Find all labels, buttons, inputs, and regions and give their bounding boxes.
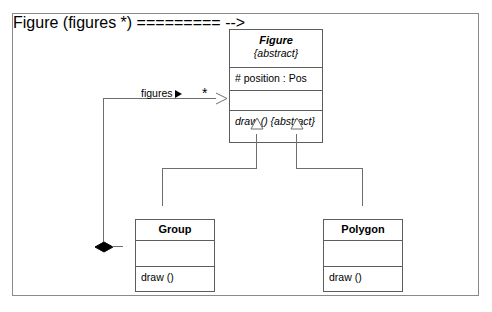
generalization-group-segment-horizontal	[162, 168, 257, 169]
operation-draw-abstract: draw () {abstract}	[230, 111, 322, 127]
association-role-label: figures	[141, 87, 173, 99]
class-attributes-figure: # position : Pos	[230, 68, 322, 91]
diagram-canvas: Figure {abstract} # position : Pos draw …	[0, 0, 492, 312]
class-box-polygon[interactable]: Polygon draw ()	[323, 219, 403, 292]
navigability-arrow-icon	[174, 89, 184, 99]
composition-diamond-icon	[92, 239, 116, 255]
generalization-polygon-segment-vertical-upper	[296, 134, 297, 169]
class-attributes-spacer-figure	[230, 91, 322, 111]
class-box-figure[interactable]: Figure {abstract} # position : Pos draw …	[229, 29, 323, 143]
class-name-figure: Figure	[230, 30, 322, 47]
operation-polygon-draw: draw ()	[324, 267, 402, 283]
association-multiplicity: *	[202, 87, 207, 99]
generalization-polygon-segment-horizontal	[296, 168, 363, 169]
class-name-polygon: Polygon	[324, 220, 402, 236]
class-name-group: Group	[136, 220, 214, 236]
class-box-group[interactable]: Group draw ()	[135, 219, 215, 292]
composition-segment-vertical	[103, 98, 104, 244]
class-stereotype-figure: {abstract}	[230, 47, 322, 60]
class-attributes-polygon	[324, 241, 402, 267]
class-header-figure: Figure {abstract}	[230, 30, 322, 68]
class-operations-polygon: draw ()	[324, 267, 402, 293]
class-operations-group: draw ()	[136, 267, 214, 293]
class-attributes-group	[136, 241, 214, 267]
composition-open-arrow-icon	[214, 92, 230, 105]
composition-segment-to-group	[112, 246, 123, 247]
generalization-triangle-polygon	[290, 117, 304, 135]
attribute-group-empty	[136, 241, 214, 245]
generalization-polygon-segment-vertical-lower	[362, 168, 363, 206]
generalization-group-segment-vertical-upper	[256, 134, 257, 169]
attribute-polygon-empty	[324, 241, 402, 245]
class-header-group: Group	[136, 220, 214, 241]
diagram-frame: Figure {abstract} # position : Pos draw …	[12, 13, 479, 296]
operation-group-draw: draw ()	[136, 267, 214, 283]
generalization-triangle-group	[250, 117, 264, 135]
class-header-polygon: Polygon	[324, 220, 402, 241]
class-operations-figure: draw () {abstract}	[230, 111, 322, 142]
generalization-group-segment-vertical-lower	[162, 168, 163, 206]
attribute-position: # position : Pos	[230, 68, 322, 84]
